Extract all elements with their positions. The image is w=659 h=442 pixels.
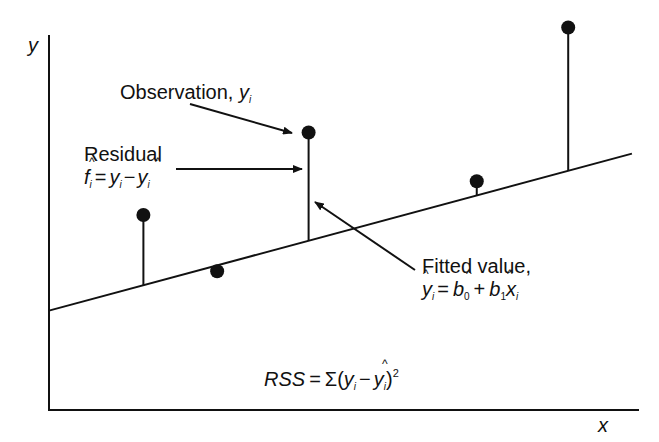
observation-point	[470, 174, 484, 188]
observation-label: Observation, yi	[120, 81, 252, 105]
observation-arrow	[190, 104, 292, 133]
x-axis-label: x	[597, 414, 609, 436]
y-axis-label: y	[26, 34, 39, 56]
observation-point	[302, 126, 316, 140]
residual-title: Residual	[84, 143, 162, 165]
svg-text:RSS=Σ(yi−yi)2: RSS=Σ(yi−yi)2	[264, 367, 399, 392]
rss-formula: ^ RSS=Σ(yi−yi)2	[264, 357, 399, 392]
svg-text:^: ^	[155, 155, 161, 169]
svg-text:fi=yi−yi: fi=yi−yi	[84, 166, 150, 190]
observation-point	[561, 21, 575, 35]
svg-text:^: ^	[466, 267, 472, 281]
regression-diagram: y x Observation, yi Residual ^ ^ fi=yi−y…	[0, 0, 659, 442]
svg-text:yi=b0+b1xi: yi=b0+b1xi	[420, 278, 519, 302]
observation-point	[136, 208, 150, 222]
observation-point	[210, 264, 224, 278]
fitted-arrow	[315, 202, 415, 270]
fitted-title: Fitted value,	[422, 255, 531, 277]
